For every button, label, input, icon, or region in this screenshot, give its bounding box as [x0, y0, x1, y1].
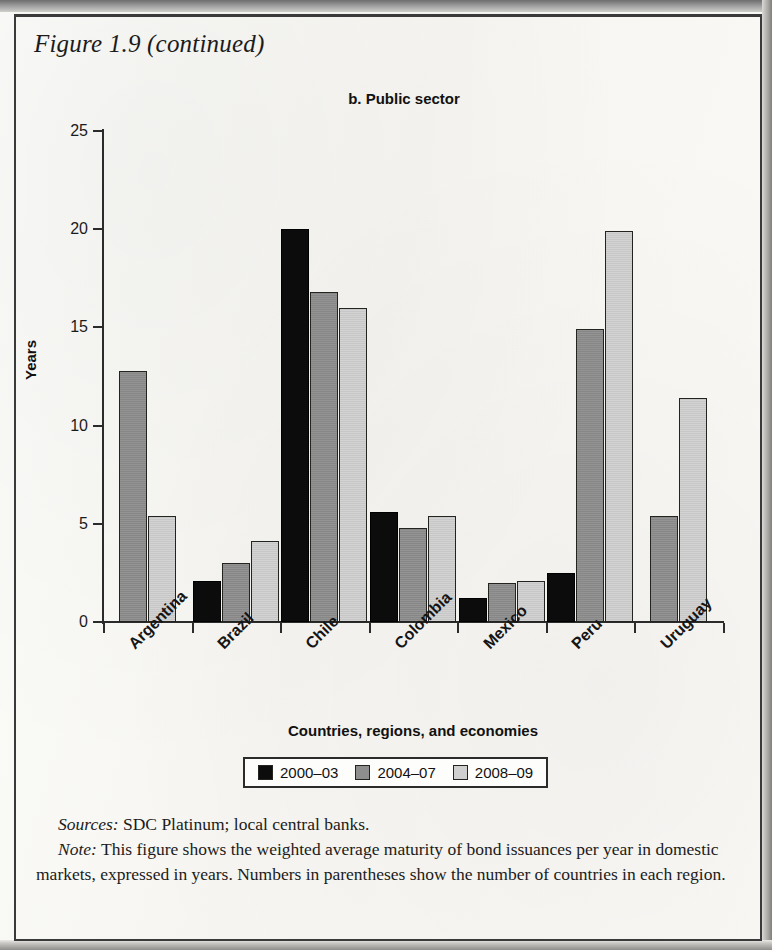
scan-right-edge	[762, 0, 772, 950]
figure-title: Figure 1.9 (continued)	[34, 30, 265, 58]
sources-text: SDC Platinum; local central banks.	[123, 814, 369, 834]
figure-notes: Sources: SDC Platinum; local central ban…	[36, 812, 742, 887]
figure-border	[14, 14, 762, 941]
scan-top-edge	[0, 0, 772, 12]
figure-page: Figure 1.9 (continued) b. Public sector …	[0, 0, 772, 950]
sources-label: Sources:	[58, 814, 119, 834]
panel-title: b. Public sector	[0, 90, 772, 107]
note-text: This figure shows the weighted average m…	[36, 839, 726, 884]
note-label: Note:	[58, 839, 97, 859]
sources-line: Sources: SDC Platinum; local central ban…	[36, 812, 742, 837]
note-line: Note: This figure shows the weighted ave…	[36, 837, 742, 887]
scan-bottom-edge	[0, 940, 772, 950]
